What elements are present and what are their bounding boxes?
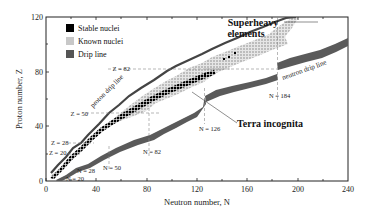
annotation-n20: N = 20 [66, 175, 84, 182]
x-tick-label: 80 [143, 185, 151, 194]
x-tick-label: 120 [191, 185, 203, 194]
x-axis-title: Neutron number, N [164, 197, 230, 207]
legend-label-stable: Stable nuclei [78, 24, 120, 33]
legend-swatch-known [66, 37, 74, 45]
x-tick-label: 200 [292, 185, 304, 194]
x-tick-label: 240 [342, 185, 354, 194]
y-tick-label: 80 [35, 68, 43, 77]
superheavy-label-line2: elements [227, 28, 264, 39]
annotation-z20: Z = 20 [49, 149, 66, 156]
superheavy-label-line1: Superheavy [228, 17, 279, 28]
annotation-n126: N = 126 [199, 125, 221, 132]
legend-swatch-stable [66, 24, 74, 32]
x-tick-label: 40 [92, 185, 100, 194]
legend-label-known: Known nuclei [78, 37, 124, 46]
annotation-n184: N = 184 [269, 92, 291, 99]
x-tick-label: 160 [241, 185, 253, 194]
terra-incognita-label: Terra incognita [237, 118, 303, 129]
y-tick-label: 120 [31, 13, 43, 22]
y-tick-label: 40 [35, 122, 43, 131]
legend-label-drip: Drip line [78, 50, 107, 59]
annotation-n28: N = 28 [77, 167, 95, 174]
y-axis-title: Proton number, Z [14, 69, 24, 129]
x-tick-label: 0 [44, 185, 48, 194]
nuclide-chart: 0 40 80 120 160 200 240 0 40 80 120 Neut… [0, 0, 369, 213]
legend-swatch-drip [66, 50, 74, 58]
annotation-z82: Z = 82 [113, 65, 130, 72]
annotation-z28: Z = 28 [51, 139, 68, 146]
annotation-n82: N = 82 [143, 148, 161, 155]
annotation-z50: Z = 50 [71, 110, 88, 117]
y-tick-label: 0 [39, 177, 43, 186]
annotation-n50: N = 50 [103, 164, 121, 171]
